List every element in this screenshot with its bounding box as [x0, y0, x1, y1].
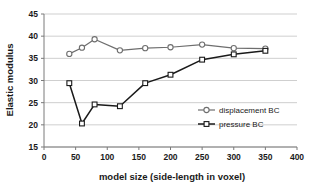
y-tick-label: 30 — [29, 76, 39, 86]
y-tick-label: 45 — [29, 9, 39, 19]
data-point-marker — [92, 37, 97, 42]
data-point-marker — [231, 46, 236, 51]
data-point-marker — [79, 45, 84, 50]
x-tick-label: 200 — [163, 152, 177, 162]
x-tick-label: 350 — [258, 152, 272, 162]
y-tick-label: 15 — [29, 142, 39, 152]
y-tick-label: 40 — [29, 31, 39, 41]
x-tick-label: 400 — [290, 152, 304, 162]
data-point-marker — [118, 104, 123, 109]
data-point-marker — [67, 51, 72, 56]
data-point-marker — [200, 42, 205, 47]
x-tick-label: 100 — [100, 152, 114, 162]
y-axis-title: Elastic modulus — [4, 44, 15, 117]
x-tick-label: 300 — [227, 152, 241, 162]
y-tick-label: 20 — [29, 120, 39, 130]
x-tick-label: 250 — [195, 152, 209, 162]
data-point-marker — [80, 121, 85, 126]
x-axis-title: model size (side-length in voxel) — [99, 171, 245, 182]
x-tick-label: 150 — [132, 152, 146, 162]
legend-marker-swatch — [204, 107, 209, 112]
data-point-marker — [168, 45, 173, 50]
x-tick-label: 50 — [71, 152, 81, 162]
data-point-marker — [67, 81, 72, 86]
x-tick-label: 0 — [42, 152, 47, 162]
data-point-marker — [231, 52, 236, 57]
legend-entry-label: pressure BC — [219, 120, 264, 129]
chart-figure: 15202530354045 050100150200250300350400 … — [0, 0, 311, 185]
data-point-marker — [92, 102, 97, 107]
data-point-marker — [143, 46, 148, 51]
y-tick-label: 35 — [29, 53, 39, 63]
data-point-marker — [168, 72, 173, 77]
data-point-marker — [263, 48, 268, 53]
data-point-marker — [117, 48, 122, 53]
data-point-marker — [200, 57, 205, 62]
legend-entry-label: displacement BC — [219, 106, 280, 115]
legend-marker-swatch — [204, 122, 209, 127]
data-point-marker — [143, 81, 148, 86]
elastic-modulus-line-chart: 15202530354045 050100150200250300350400 … — [0, 0, 311, 185]
y-tick-label: 25 — [29, 98, 39, 108]
